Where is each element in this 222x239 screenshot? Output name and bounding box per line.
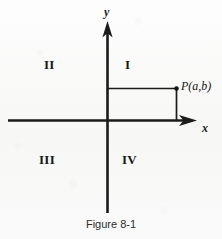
quadrant-label-iii: III xyxy=(39,153,55,166)
quadrant-label-iv: IV xyxy=(122,153,137,166)
x-axis-label: x xyxy=(202,122,208,134)
coordinate-plane-graphic xyxy=(0,0,222,239)
figure-container: y x II I III IV P(a,b) Figure 8-1 xyxy=(0,0,222,239)
point-p-marker xyxy=(174,86,179,91)
figure-caption: Figure 8-1 xyxy=(0,219,222,230)
quadrant-label-i: I xyxy=(125,58,130,71)
point-p-label: P(a,b) xyxy=(181,80,211,92)
y-axis-label: y xyxy=(104,6,109,18)
quadrant-label-ii: II xyxy=(44,58,55,71)
